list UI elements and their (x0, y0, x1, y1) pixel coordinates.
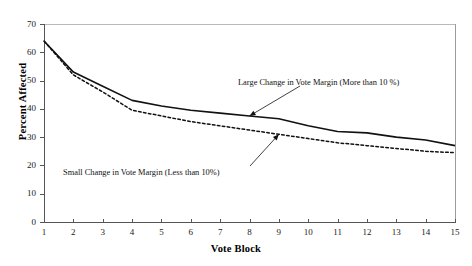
x-tick-label: 15 (445, 228, 465, 237)
annotation-leader-line (250, 134, 279, 166)
x-tick-label: 7 (210, 228, 230, 237)
x-axis-title: Vote Block (0, 243, 472, 254)
y-axis-title: Percent Affected (17, 42, 28, 162)
y-tick-mark (40, 165, 44, 166)
x-tick-mark (396, 219, 397, 223)
plot-right-rule (455, 24, 456, 222)
x-tick-mark (220, 219, 221, 223)
x-tick-mark (73, 219, 74, 223)
x-tick-label: 4 (122, 228, 142, 237)
x-tick-label: 13 (386, 228, 406, 237)
plot-top-rule (44, 24, 456, 25)
annotation-arrowhead (250, 111, 256, 116)
y-tick-mark (40, 137, 44, 138)
x-tick-label: 12 (357, 228, 377, 237)
series-line-large-change (44, 41, 455, 146)
x-tick-mark (455, 219, 456, 223)
annotation-arrowhead (273, 134, 279, 140)
x-tick-label: 14 (416, 228, 436, 237)
x-tick-mark (132, 219, 133, 223)
y-tick-mark (40, 81, 44, 82)
y-axis-line (44, 24, 45, 222)
annotation-leader-line (250, 86, 301, 116)
y-tick-mark (40, 52, 44, 53)
annotation-leader-lines (250, 86, 301, 166)
x-tick-mark (279, 219, 280, 223)
y-tick-mark (40, 109, 44, 110)
x-tick-label: 9 (269, 228, 289, 237)
y-tick-label: 0 (10, 218, 36, 227)
x-tick-label: 10 (298, 228, 318, 237)
x-tick-mark (367, 219, 368, 223)
series-line-small-change (44, 41, 455, 153)
annotation-small-change: Small Change in Vote Margin (Less than 1… (63, 168, 220, 178)
y-tick-label: 70 (10, 20, 36, 29)
y-tick-mark (40, 194, 44, 195)
x-tick-mark (308, 219, 309, 223)
y-tick-label: 10 (10, 189, 36, 198)
y-tick-mark (40, 24, 44, 25)
x-tick-mark (250, 219, 251, 223)
x-tick-label: 1 (34, 228, 54, 237)
x-tick-mark (103, 219, 104, 223)
annotation-large-change: Large Change in Vote Margin (More than 1… (238, 78, 399, 88)
x-tick-label: 6 (181, 228, 201, 237)
x-tick-label: 11 (328, 228, 348, 237)
x-tick-mark (44, 219, 45, 223)
x-tick-label: 2 (63, 228, 83, 237)
x-tick-mark (426, 219, 427, 223)
x-tick-label: 8 (240, 228, 260, 237)
y-tick-label: 20 (10, 161, 36, 170)
x-tick-label: 5 (151, 228, 171, 237)
chart-figure: 010203040506070 123456789101112131415 Pe… (0, 0, 472, 266)
x-tick-mark (191, 219, 192, 223)
x-tick-mark (161, 219, 162, 223)
x-tick-label: 3 (93, 228, 113, 237)
x-tick-mark (338, 219, 339, 223)
